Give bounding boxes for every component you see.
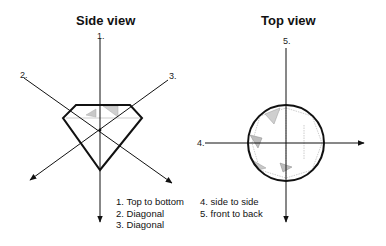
axis-label-2: 2. [20,70,28,80]
side-view-legend: 1. Top to bottom 2. Diagonal 3. Diagonal [116,196,184,231]
legend-item-5: 5. front to back [200,208,263,220]
top-view-title: Top view [261,13,316,28]
legend-item-2: 2. Diagonal [116,208,184,220]
gem-side-outline [63,105,142,170]
top-view-legend: 4. side to side 5. front to back [200,196,263,219]
axis-label-5: 5. [283,36,291,46]
axis-label-4: 4. [197,138,205,148]
axis-label-1: 1. [97,31,105,41]
legend-item-3: 3. Diagonal [116,219,184,231]
side-view-diagram [24,38,172,222]
legend-item-4: 4. side to side [200,196,263,208]
axis-label-3: 3. [169,71,177,81]
legend-item-1: 1. Top to bottom [116,196,184,208]
diagram-canvas [0,0,386,246]
center-point [99,129,102,132]
side-view-title: Side view [76,13,135,28]
